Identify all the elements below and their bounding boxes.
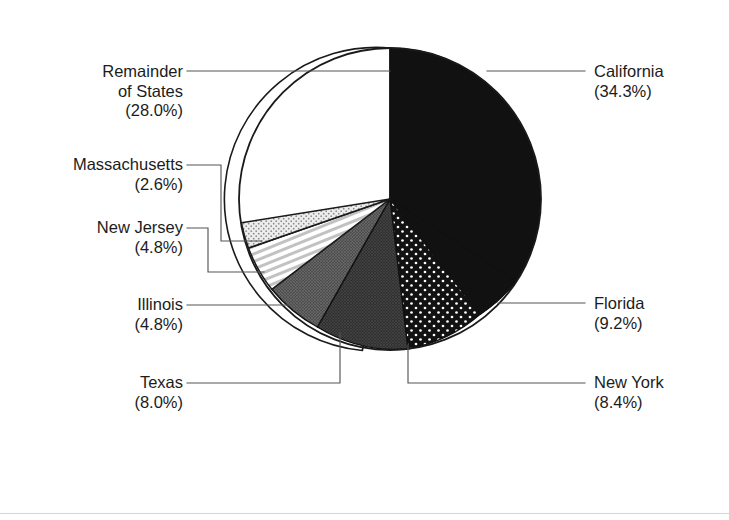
label-texas-percent: (8.0%) — [0, 393, 183, 413]
label-massachusetts-percent: (2.6%) — [0, 175, 183, 195]
label-florida-percent: (9.2%) — [594, 314, 644, 334]
label-new-jersey-percent: (4.8%) — [0, 238, 183, 258]
label-massachusetts: Massachusetts (2.6%) — [0, 155, 183, 194]
label-illinois-percent: (4.8%) — [0, 315, 183, 335]
label-remainder-of-states-line2: of States — [0, 82, 183, 102]
label-florida-name: Florida — [594, 294, 644, 314]
label-new-york: New York (8.4%) — [594, 373, 664, 412]
label-illinois: Illinois (4.8%) — [0, 295, 183, 334]
label-new-york-name: New York — [594, 373, 664, 393]
label-texas: Texas (8.0%) — [0, 373, 183, 412]
label-remainder-of-states-percent: (28.0%) — [0, 101, 183, 121]
label-illinois-name: Illinois — [0, 295, 183, 315]
leader-line-texas — [187, 333, 340, 383]
label-remainder-of-states: Remainder of States (28.0%) — [0, 62, 183, 121]
scan-artifact-line — [0, 513, 729, 514]
label-new-jersey: New Jersey (4.8%) — [0, 218, 183, 257]
label-new-jersey-name: New Jersey — [0, 218, 183, 238]
label-remainder-of-states-line1: Remainder — [0, 62, 183, 82]
label-florida: Florida (9.2%) — [594, 294, 644, 333]
leader-line-new-york — [408, 345, 585, 383]
label-new-york-percent: (8.4%) — [594, 393, 664, 413]
label-california-name: California — [594, 62, 664, 82]
label-california: California (34.3%) — [594, 62, 664, 101]
label-texas-name: Texas — [0, 373, 183, 393]
label-massachusetts-name: Massachusetts — [0, 155, 183, 175]
label-california-percent: (34.3%) — [594, 82, 664, 102]
